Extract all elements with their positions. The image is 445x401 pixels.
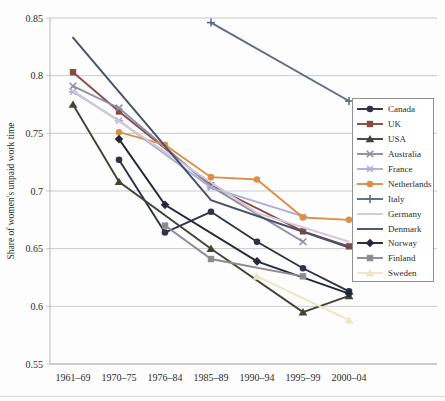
legend-swatch-circle-marker <box>356 179 384 189</box>
series-germany <box>73 91 349 242</box>
legend-swatch-triangle-marker <box>356 134 384 144</box>
legend-item-denmark: Denmark <box>353 221 433 236</box>
legend-item-uk: UK <box>353 117 433 132</box>
legend-label: USA <box>388 134 406 144</box>
legend-swatch-none-marker <box>356 224 384 234</box>
y-tick-label: 0.65 <box>26 243 44 254</box>
series-sweden <box>253 272 354 323</box>
legend-item-netherlands: Netherlands <box>353 176 433 191</box>
legend-item-norway: Norway <box>353 236 433 251</box>
y-tick-label: 0.6 <box>31 301 44 312</box>
legend-item-france: France <box>353 162 433 177</box>
x-tick-label: 1990–94 <box>240 372 275 383</box>
legend-label: France <box>388 164 413 174</box>
legend-label: Canada <box>388 104 415 114</box>
series-usa <box>69 100 354 315</box>
legend-label: Norway <box>388 238 417 248</box>
x-tick-label: 1970–75 <box>102 372 137 383</box>
series-denmark <box>73 38 349 248</box>
legend-swatch-none-marker <box>356 209 384 219</box>
legend-label: Denmark <box>388 224 422 234</box>
legend-label: Germany <box>388 209 422 219</box>
y-tick-label: 0.85 <box>26 13 44 24</box>
legend-item-finland: Finland <box>353 251 433 266</box>
x-tick-label: 1995–99 <box>286 372 321 383</box>
x-tick-label: 1961–69 <box>56 372 91 383</box>
series-norway <box>115 135 354 298</box>
legend-swatch-diamond-marker <box>356 238 384 248</box>
series-uk <box>70 69 352 250</box>
y-tick-label: 0.75 <box>26 128 44 139</box>
y-axis-title: Share of women's unpaid work time <box>6 122 16 259</box>
legend-swatch-square-marker <box>356 253 384 263</box>
legend-label: Finland <box>388 253 416 263</box>
legend-label: Italy <box>388 194 405 204</box>
series-canada <box>116 157 353 295</box>
legend-item-australia: Australia <box>353 147 433 162</box>
legend-swatch-x-marker <box>356 149 384 159</box>
legend-item-germany: Germany <box>353 206 433 221</box>
legend: CanadaUKUSAAustraliaFranceNetherlandsIta… <box>352 98 434 282</box>
legend-label: Australia <box>388 149 421 159</box>
legend-item-sweden: Sweden <box>353 266 433 281</box>
legend-item-italy: Italy <box>353 191 433 206</box>
legend-swatch-star-marker <box>356 164 384 174</box>
legend-item-usa: USA <box>353 132 433 147</box>
y-tick-label: 0.55 <box>26 359 44 370</box>
x-tick-label: 1985–89 <box>194 372 229 383</box>
legend-swatch-circle-marker <box>356 104 384 114</box>
legend-label: UK <box>388 119 401 129</box>
legend-swatch-plus-marker <box>356 194 384 204</box>
legend-label: Sweden <box>388 268 417 278</box>
series-italy <box>207 19 353 105</box>
bottom-rule <box>0 396 445 397</box>
legend-label: Netherlands <box>388 179 431 189</box>
x-tick-label: 2000–04 <box>332 372 367 383</box>
legend-swatch-triangle-marker <box>356 268 384 278</box>
y-tick-label: 0.8 <box>31 70 44 81</box>
x-tick-label: 1976–84 <box>148 372 183 383</box>
legend-item-canada: Canada <box>353 102 433 117</box>
series-france <box>69 89 307 219</box>
y-tick-labels: 0.850.80.750.70.650.60.55 <box>26 13 44 370</box>
y-tick-label: 0.7 <box>31 186 44 197</box>
legend-swatch-square-marker <box>356 119 384 129</box>
x-tick-labels: 1961–691970–751976–841985–891990–941995–… <box>56 372 367 383</box>
figure: 0.850.80.750.70.650.60.551961–691970–751… <box>0 0 445 401</box>
